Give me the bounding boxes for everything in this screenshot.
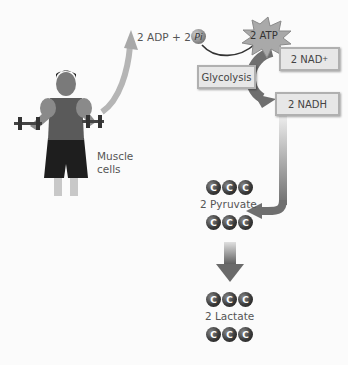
pi-count: 2: [184, 31, 191, 43]
nad-plus-box: 2 NAD+: [279, 47, 340, 71]
nad-plus-text: 2 NAD: [291, 54, 323, 65]
adp-label: 2 ADP + 2: [137, 31, 191, 43]
carbon-atom: C: [222, 180, 237, 195]
pyruvate-carbons-bottom: C C C: [206, 215, 253, 230]
lactate-carbons-bottom: C C C: [206, 327, 253, 342]
carbon-atom: C: [206, 215, 221, 230]
glycolysis-box: Glycolysis: [197, 65, 256, 89]
carbon-atom: C: [222, 327, 237, 342]
lactate-carbons-top: C C C: [206, 292, 253, 307]
lactate-label: 2 Lactate: [205, 310, 254, 322]
glycolysis-text: Glycolysis: [202, 72, 252, 83]
pi-symbol: Pi: [195, 32, 203, 42]
carbon-atom: C: [206, 292, 221, 307]
muscle-line1: Muscle: [97, 150, 133, 163]
pyruvate-carbons-top: C C C: [206, 180, 253, 195]
carbon-atom: C: [238, 180, 253, 195]
muscle-cells-label: Muscle cells: [97, 150, 133, 176]
muscle-line2: cells: [97, 163, 133, 176]
carbon-atom: C: [222, 215, 237, 230]
carbon-atom: C: [238, 327, 253, 342]
nadh-text: 2 NADH: [288, 99, 327, 110]
carbon-atom: C: [206, 180, 221, 195]
pyruvate-to-lactate-arrow-icon: [216, 242, 244, 282]
atp-label: 2 ATP: [250, 30, 278, 41]
carbon-atom: C: [238, 215, 253, 230]
nadh-box: 2 NADH: [275, 92, 340, 116]
adp-text: 2 ADP: [137, 31, 169, 43]
carbon-atom: C: [206, 327, 221, 342]
athlete-illustration: [10, 68, 110, 198]
carbon-atom: C: [222, 292, 237, 307]
plus-sign: +: [172, 31, 181, 43]
phosphate-icon: Pi: [191, 29, 206, 44]
pyruvate-label: 2 Pyruvate: [200, 198, 257, 210]
nad-plus-sup: +: [322, 55, 328, 63]
carbon-atom: C: [238, 292, 253, 307]
